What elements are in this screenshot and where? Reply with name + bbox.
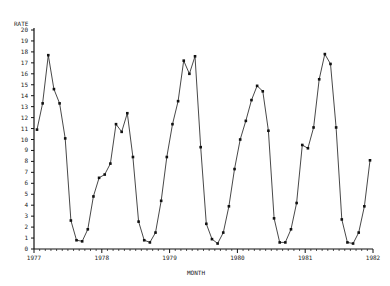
- data-point: [143, 239, 146, 242]
- data-point: [92, 195, 95, 198]
- y-tick-label: 12: [21, 114, 29, 121]
- data-point: [188, 73, 191, 76]
- data-point: [222, 231, 225, 234]
- data-point: [154, 231, 157, 234]
- data-point: [295, 202, 298, 205]
- data-point: [86, 228, 89, 231]
- data-point: [171, 123, 174, 126]
- data-point: [160, 200, 163, 203]
- data-point: [199, 146, 202, 149]
- data-point: [75, 239, 78, 242]
- y-axis: 01234567891011121314151617181920: [21, 26, 34, 252]
- data-point: [352, 242, 355, 245]
- data-point: [318, 78, 321, 81]
- y-tick-label: 14: [21, 92, 29, 99]
- y-axis-label: RATE: [14, 20, 29, 27]
- data-point: [137, 220, 140, 223]
- y-tick-label: 1: [24, 234, 28, 241]
- y-tick-label: 16: [21, 70, 29, 77]
- data-point: [233, 168, 236, 171]
- line-chart: 01234567891011121314151617181920 1977197…: [0, 0, 390, 286]
- x-tick-label: 1981: [298, 254, 313, 261]
- data-point: [98, 177, 101, 180]
- data-point: [132, 156, 135, 159]
- y-tick-label: 8: [24, 157, 28, 164]
- y-tick-label: 15: [21, 81, 29, 88]
- data-point: [357, 231, 360, 234]
- y-tick-label: 5: [24, 190, 28, 197]
- x-tick-label: 1979: [162, 254, 177, 261]
- data-point: [70, 219, 73, 222]
- data-point: [239, 138, 242, 141]
- data-point: [346, 241, 349, 244]
- data-point: [211, 238, 214, 241]
- data-point: [64, 137, 67, 140]
- data-point: [120, 131, 123, 134]
- y-tick-label: 20: [21, 26, 29, 33]
- data-point: [36, 128, 39, 131]
- data-point: [109, 162, 112, 165]
- data-point: [329, 63, 332, 66]
- y-tick-label: 13: [21, 103, 29, 110]
- data-point: [307, 147, 310, 150]
- data-point: [312, 126, 315, 129]
- data-point: [194, 55, 197, 58]
- data-point: [182, 59, 185, 62]
- rate-series-markers: [36, 53, 372, 245]
- data-point: [335, 126, 338, 129]
- y-tick-label: 19: [21, 37, 29, 44]
- y-tick-label: 11: [21, 125, 29, 132]
- data-point: [81, 240, 84, 243]
- data-point: [324, 53, 327, 56]
- data-point: [250, 99, 253, 102]
- y-tick-label: 3: [24, 212, 28, 219]
- data-point: [205, 223, 208, 226]
- y-tick-label: 9: [24, 146, 28, 153]
- data-point: [166, 156, 169, 159]
- x-tick-label: 1977: [27, 254, 42, 261]
- data-point: [216, 242, 219, 245]
- x-axis: 197719781979198019811982: [27, 249, 381, 261]
- data-point: [41, 102, 44, 105]
- data-point: [301, 144, 304, 147]
- data-point: [340, 218, 343, 221]
- data-point: [245, 120, 248, 123]
- rate-series-line: [37, 54, 370, 243]
- x-axis-label: MONTH: [187, 269, 205, 276]
- y-tick-label: 10: [21, 136, 29, 143]
- data-point: [267, 129, 270, 132]
- y-tick-label: 2: [24, 223, 28, 230]
- y-tick-label: 0: [24, 245, 28, 252]
- y-tick-label: 7: [24, 168, 28, 175]
- data-point: [284, 241, 287, 244]
- y-tick-label: 6: [24, 179, 28, 186]
- data-point: [363, 205, 366, 208]
- data-point: [103, 173, 106, 176]
- data-point: [149, 241, 152, 244]
- data-point: [273, 217, 276, 220]
- x-tick-label: 1980: [230, 254, 245, 261]
- data-point: [115, 123, 118, 126]
- data-point: [256, 85, 259, 88]
- x-tick-label: 1978: [95, 254, 110, 261]
- data-point: [261, 90, 264, 93]
- data-point: [278, 241, 281, 244]
- data-point: [53, 88, 56, 91]
- data-point: [126, 112, 129, 115]
- x-tick-label: 1982: [366, 254, 381, 261]
- data-point: [369, 159, 372, 162]
- y-tick-label: 18: [21, 48, 29, 55]
- data-point: [47, 54, 50, 57]
- data-point: [228, 205, 231, 208]
- y-tick-label: 4: [24, 201, 28, 208]
- data-point: [290, 228, 293, 231]
- data-point: [58, 102, 61, 105]
- y-tick-label: 17: [21, 59, 29, 66]
- data-point: [177, 100, 180, 103]
